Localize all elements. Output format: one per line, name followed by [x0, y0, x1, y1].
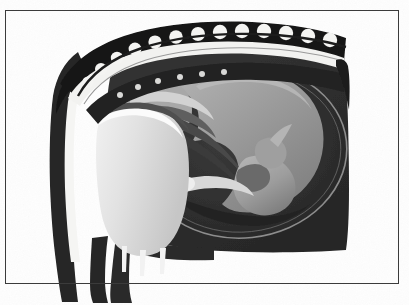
- anatomical-illustration: [0, 0, 409, 305]
- figure-root: Grayscale anatomical line-and-wash drawi…: [0, 0, 409, 305]
